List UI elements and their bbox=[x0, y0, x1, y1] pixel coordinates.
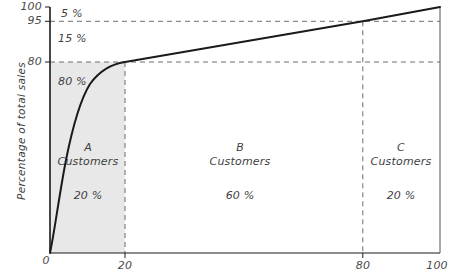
x-tick-label-100: 100 bbox=[424, 260, 450, 271]
zone-c-label: Customers bbox=[365, 156, 437, 167]
x-tick-label-0: 0 bbox=[36, 255, 56, 266]
y-tick-label-100: 100 bbox=[16, 1, 42, 12]
zone-b-label: Customers bbox=[204, 156, 276, 167]
y-tick-label-80: 80 bbox=[16, 56, 42, 67]
segment-label-bottom-80pct: 80 % bbox=[58, 76, 87, 87]
y-axis-title: Percentage of total sales bbox=[16, 62, 27, 200]
zone-b-letter: B bbox=[214, 142, 266, 153]
segment-label-top-5pct: 5 % bbox=[61, 8, 83, 19]
zone-b-share: 60 % bbox=[210, 190, 270, 201]
x-tick-label-20: 20 bbox=[113, 260, 137, 271]
pareto-abc-chart: Percentage of total sales 100 95 80 0 20… bbox=[0, 0, 451, 279]
segment-label-middle-15pct: 15 % bbox=[58, 33, 87, 44]
zone-a-label: Customers bbox=[52, 156, 124, 167]
zone-a-letter: A bbox=[62, 142, 114, 153]
x-tick-label-80: 80 bbox=[351, 260, 375, 271]
zone-c-share: 20 % bbox=[371, 190, 431, 201]
y-tick-label-95: 95 bbox=[16, 15, 42, 26]
zone-a-share: 20 % bbox=[58, 190, 118, 201]
zone-c-letter: C bbox=[375, 142, 427, 153]
